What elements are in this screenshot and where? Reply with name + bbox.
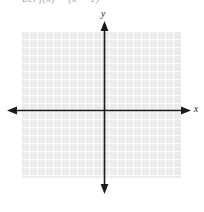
y-axis-top-arrowhead xyxy=(101,21,109,31)
coordinate-plane-figure: Let f(x) = (x − 1) y x xyxy=(0,0,204,212)
x-axis-right-arrowhead xyxy=(181,107,191,115)
x-axis-label: x xyxy=(194,105,198,115)
y-axis-bottom-arrowhead xyxy=(101,184,109,194)
x-axis-left-arrowhead xyxy=(7,107,17,115)
axes-overlay xyxy=(0,0,204,212)
y-axis-label: y xyxy=(101,10,105,20)
